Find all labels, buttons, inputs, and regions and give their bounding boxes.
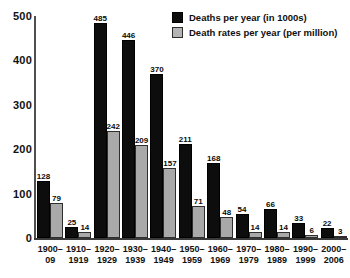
x-tick-label-line2: 1929	[92, 255, 122, 266]
bar-value-label: 6	[310, 227, 314, 235]
x-tick-label: 1950–1959	[177, 244, 207, 266]
bar-death-rates: 79	[50, 203, 63, 238]
bar-death-rates: 14	[277, 232, 290, 238]
x-tick-label-line1: 1910–	[66, 244, 91, 254]
bar-value-label: 25	[67, 219, 76, 227]
bar-value-label: 54	[238, 206, 247, 214]
x-tick-label: 1970–1979	[234, 244, 264, 266]
x-tick-label: 1900–09	[35, 244, 65, 266]
bar-group: 5414	[236, 16, 262, 238]
x-tick-label-line1: 1950–	[179, 244, 204, 254]
bar-value-label: 370	[150, 66, 163, 74]
bar-group: 6614	[264, 16, 290, 238]
bar-value-label: 446	[122, 32, 135, 40]
x-axis-baseline	[34, 238, 348, 240]
bar-deaths: 22	[321, 228, 334, 238]
bar-deaths: 370	[150, 74, 163, 238]
legend-label: Death rates per year (per million)	[189, 27, 337, 38]
x-tick-label-line1: 1990–	[293, 244, 318, 254]
x-tick-label-line2: 1949	[149, 255, 179, 266]
bar-deaths: 211	[179, 144, 192, 238]
bar-group: 12879	[37, 16, 63, 238]
y-tick-label: 400	[2, 55, 32, 66]
x-tick-label: 1920–1929	[92, 244, 122, 266]
bar-group: 223	[321, 16, 347, 238]
bar-value-label: 128	[37, 173, 50, 181]
bar-deaths: 25	[65, 227, 78, 238]
x-tick-label: 1960–1969	[205, 244, 235, 266]
bar-value-label: 168	[207, 155, 220, 163]
x-tick-label-line2: 1979	[234, 255, 264, 266]
bar-group: 370157	[150, 16, 176, 238]
x-tick-label: 1990–1999	[290, 244, 320, 266]
legend-swatch-death-rates	[172, 27, 183, 38]
x-tick-label-line1: 1940–	[151, 244, 176, 254]
bar-group: 16848	[207, 16, 233, 238]
plot-area: 1287925144852424462093701572117116848541…	[36, 16, 348, 238]
x-tick-label-line1: 2000–	[321, 244, 346, 254]
x-tick-label: 2000–2006	[319, 244, 349, 266]
x-tick-label-line2: 1939	[120, 255, 150, 266]
bar-value-label: 3	[338, 228, 342, 236]
x-tick-label-line2: 1999	[290, 255, 320, 266]
x-tick-label-line1: 1970–	[236, 244, 261, 254]
bar-deaths: 128	[37, 181, 50, 238]
legend-item: Deaths per year (in 1000s)	[172, 12, 348, 23]
legend-label: Deaths per year (in 1000s)	[189, 12, 307, 23]
x-tick-label-line1: 1930–	[123, 244, 148, 254]
bar-value-label: 14	[251, 224, 260, 232]
x-tick-label-line2: 1989	[262, 255, 292, 266]
y-axis-tick-labels: 5004003002001000	[0, 0, 32, 278]
bar-deaths: 485	[94, 23, 107, 238]
chart-legend: Deaths per year (in 1000s)Death rates pe…	[172, 12, 348, 42]
x-tick-label-line1: 1900–	[38, 244, 63, 254]
x-tick-label-line2: 2006	[319, 255, 349, 266]
y-tick-label: 500	[2, 11, 32, 22]
bar-deaths: 168	[207, 163, 220, 238]
legend-swatch-deaths	[172, 12, 183, 23]
bar-value-label: 209	[135, 137, 148, 145]
bar-value-label: 79	[52, 195, 61, 203]
bar-group: 446209	[122, 16, 148, 238]
x-tick-label-line2: 1959	[177, 255, 207, 266]
bar-group: 485242	[94, 16, 120, 238]
bar-value-label: 157	[163, 160, 176, 168]
bar-death-rates: 6	[305, 235, 318, 238]
x-tick-label: 1980–1989	[262, 244, 292, 266]
x-tick-label: 1930–1939	[120, 244, 150, 266]
bar-deaths: 33	[292, 223, 305, 238]
bar-value-label: 22	[323, 220, 332, 228]
bar-death-rates: 14	[249, 232, 262, 238]
bar-value-label: 242	[107, 123, 120, 131]
bar-death-rates: 48	[220, 217, 233, 238]
bar-deaths: 446	[122, 40, 135, 238]
bar-value-label: 66	[266, 201, 275, 209]
bar-value-label: 211	[179, 136, 192, 144]
bar-value-label: 71	[194, 198, 203, 206]
bar-group: 336	[292, 16, 318, 238]
bar-death-rates: 71	[192, 206, 205, 238]
bar-death-rates: 14	[78, 232, 91, 238]
x-tick-label-line2: 09	[35, 255, 65, 266]
bar-value-label: 33	[294, 215, 303, 223]
x-tick-label-line2: 1969	[205, 255, 235, 266]
bar-death-rates: 157	[163, 168, 176, 238]
x-axis-tick-labels: 1900–091910–19191920–19291930–19391940–1…	[36, 244, 348, 274]
x-tick-label-line2: 1919	[64, 255, 94, 266]
bar-deaths: 66	[264, 209, 277, 238]
bar-chart: 5004003002001000 12879251448524244620937…	[0, 0, 350, 278]
bar-value-label: 14	[80, 224, 89, 232]
y-tick-label: 0	[2, 233, 32, 244]
x-tick-label-line1: 1960–	[208, 244, 233, 254]
y-tick-label: 200	[2, 144, 32, 155]
bar-value-label: 48	[222, 209, 231, 217]
x-tick-label: 1910–1919	[64, 244, 94, 266]
y-tick-label: 300	[2, 100, 32, 111]
bar-group: 2514	[65, 16, 91, 238]
bar-value-label: 485	[94, 15, 107, 23]
bar-death-rates: 209	[135, 145, 148, 238]
bar-group: 21171	[179, 16, 205, 238]
bar-death-rates: 3	[334, 236, 347, 238]
y-tick-label: 100	[2, 189, 32, 200]
x-tick-label-line1: 1920–	[94, 244, 119, 254]
